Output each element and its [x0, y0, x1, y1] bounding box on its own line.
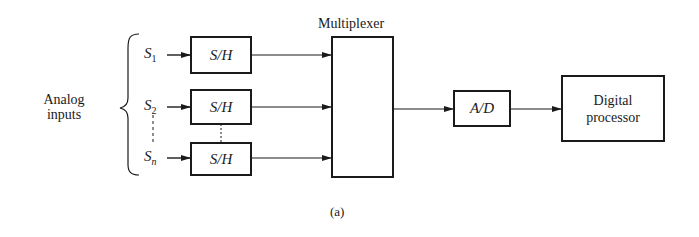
sample-hold-label: S/H — [210, 151, 233, 168]
processor-label-line2: processor — [586, 109, 640, 126]
sample-hold-label: S/H — [210, 47, 233, 64]
sample-hold-label: S/H — [210, 99, 233, 116]
digital-processor-block: Digital processor — [561, 75, 665, 142]
input-s1-label: S1 — [144, 46, 157, 66]
sample-hold-2: S/H — [190, 89, 252, 125]
input-sub: 2 — [152, 105, 157, 116]
input-name: S — [144, 148, 152, 164]
sample-hold-1: S/H — [190, 36, 252, 74]
input-s2-label: S2 — [144, 98, 157, 118]
analog-label-line2: inputs — [36, 107, 92, 122]
analog-inputs-label: Analog inputs — [36, 92, 92, 122]
multiplexer-block — [331, 36, 394, 178]
input-name: S — [144, 97, 152, 113]
figure-caption: (a) — [330, 204, 344, 219]
sample-hold-n: S/H — [190, 142, 252, 176]
analog-label-line1: Analog — [36, 92, 92, 107]
adc-label: A/D — [470, 100, 494, 117]
input-name: S — [144, 45, 152, 61]
multiplexer-label: Multiplexer — [318, 16, 384, 31]
input-sub: n — [152, 156, 157, 167]
input-sn-label: Sn — [144, 149, 157, 169]
processor-label-line1: Digital — [594, 92, 633, 109]
input-sub: 1 — [152, 53, 157, 64]
adc-block: A/D — [453, 90, 511, 127]
input-brace — [120, 34, 139, 175]
